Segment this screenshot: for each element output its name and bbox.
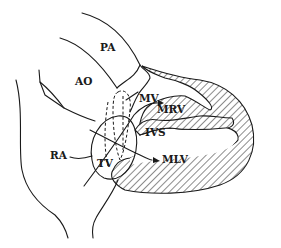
ra-leader-line: [70, 156, 92, 159]
label-ivs: IVS: [145, 126, 166, 138]
label-pa: PA: [100, 41, 116, 53]
label-ao: AO: [74, 75, 92, 87]
tv-divider-line: [92, 180, 118, 238]
heart-diagram: PA AO MV MRV IVS RA TV MLV: [0, 0, 281, 248]
valve-region-outline: [117, 65, 150, 112]
label-ra: RA: [50, 149, 68, 161]
pulmonary-artery-outline: [82, 13, 140, 65]
label-mlv: MLV: [162, 153, 189, 165]
label-mrv: MRV: [157, 103, 186, 115]
label-tv: TV: [97, 157, 114, 169]
